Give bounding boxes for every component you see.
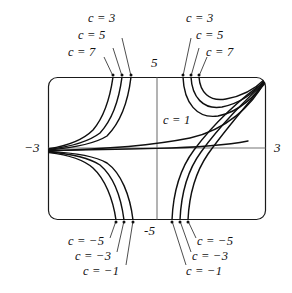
contour-label-bottom-right-cm1: c = −1 [186, 265, 222, 278]
contour-label-bottom-right-cm3: c = −3 [192, 250, 228, 263]
leader-dots-top-right [182, 74, 201, 77]
contour-label-top-left-c5: c = 5 [78, 29, 105, 42]
contour-label-bottom-right-cm5: c = −5 [197, 235, 233, 248]
leader-dots-bottom-left [115, 221, 135, 224]
contour-label-bottom-left-cm5: c = −5 [68, 235, 104, 248]
leader-dots-top-left [112, 74, 133, 77]
curve-cm1-lower-left [49, 151, 133, 220]
contour-label-center-c1: c = 1 [163, 114, 190, 127]
axis-label-right-3: 3 [274, 141, 281, 154]
axis-label-bottom-minus5: -5 [144, 224, 155, 237]
axis-label-left-minus3: −3 [24, 141, 40, 154]
leader-dots-bottom-right [171, 221, 190, 224]
contour-plot-figure: c = 3 c = 5 c = 7 c = 3 c = 5 c = 7 c = … [0, 0, 292, 293]
leader-lines-top-left [104, 38, 131, 76]
contour-label-top-right-c5: c = 5 [196, 29, 223, 42]
contour-label-top-right-c3: c = 3 [186, 12, 213, 25]
contour-label-top-left-c7: c = 7 [68, 46, 95, 59]
axis-label-top-5: 5 [151, 56, 158, 69]
leader-lines-bottom-left [110, 221, 133, 265]
contour-label-top-right-c7: c = 7 [206, 46, 233, 59]
contour-label-bottom-left-cm1: c = −1 [83, 265, 119, 278]
curve-cm3-lower-left [49, 152, 124, 220]
plot-canvas [0, 0, 292, 293]
leader-lines-top-right [183, 38, 207, 76]
contour-label-top-left-c3: c = 3 [88, 12, 115, 25]
curve-cm5-lower-right [188, 83, 265, 220]
contour-label-bottom-left-cm3: c = −3 [75, 250, 111, 263]
